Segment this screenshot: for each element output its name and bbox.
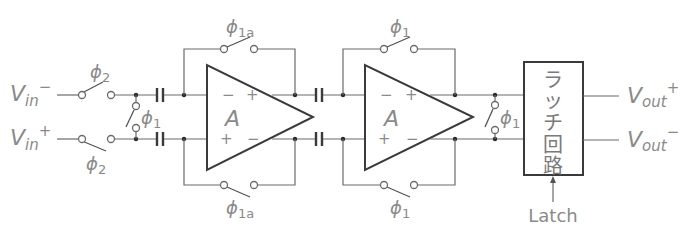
svg-text:Vout−: Vout− bbox=[627, 123, 679, 155]
svg-text:+: + bbox=[405, 86, 418, 104]
svg-text:−: − bbox=[247, 130, 260, 148]
svg-text:路: 路 bbox=[543, 154, 563, 178]
coupling-capacitor-1-top bbox=[157, 88, 163, 102]
stage1-feedback-bottom: ϕ1a bbox=[182, 137, 297, 221]
phi2-bottom-label: ϕ2 bbox=[86, 153, 106, 177]
input-switch-bottom: ϕ2 bbox=[57, 136, 156, 178]
svg-text:Vin+: Vin+ bbox=[10, 122, 51, 154]
stage1-feedback-top: ϕ1a bbox=[182, 16, 297, 97]
vin-minus-label: Vin− bbox=[10, 78, 51, 110]
svg-text:−: − bbox=[406, 130, 419, 148]
stage2-feedback-top: ϕ1 bbox=[341, 16, 457, 97]
output-short-switch: ϕ1 bbox=[485, 93, 520, 141]
vin-plus-label: Vin+ bbox=[10, 122, 51, 154]
coupling-capacitor-1-bottom bbox=[157, 132, 163, 146]
phi1-stage2-top-label: ϕ1 bbox=[390, 16, 410, 40]
phi2-top-label: ϕ2 bbox=[90, 61, 110, 85]
svg-text:+: + bbox=[246, 86, 259, 104]
input-switch-top: ϕ2 bbox=[57, 61, 156, 99]
phi1-output-label: ϕ1 bbox=[500, 107, 520, 131]
svg-text:−: − bbox=[222, 86, 235, 104]
latch-circuit-block: ラ ッ チ 回 路 bbox=[524, 62, 583, 178]
svg-text:チ: チ bbox=[543, 111, 563, 135]
svg-text:Vout+: Vout+ bbox=[627, 79, 679, 111]
amplifier-stage-1: − + + − A bbox=[207, 65, 313, 170]
phi1a-top-label: ϕ1a bbox=[226, 16, 254, 40]
svg-text:ッ: ッ bbox=[543, 89, 563, 113]
coupling-capacitor-2-bottom bbox=[316, 132, 322, 146]
phi1-stage2-bottom-label: ϕ1 bbox=[390, 197, 410, 221]
svg-text:−: − bbox=[380, 86, 393, 104]
latch-label: Latch bbox=[528, 205, 577, 226]
latch-control-input: Latch bbox=[528, 176, 577, 226]
phi1a-bottom-label: ϕ1a bbox=[226, 197, 254, 221]
vout-minus-label: Vout− bbox=[627, 123, 679, 155]
gain-label-a1: A bbox=[223, 106, 240, 131]
vout-plus-label: Vout+ bbox=[627, 79, 679, 111]
phi1-input-label: ϕ1 bbox=[141, 107, 161, 131]
comparator-circuit-diagram: Vin− Vin+ ϕ2 ϕ2 ϕ1 bbox=[0, 0, 687, 232]
svg-text:+: + bbox=[378, 130, 391, 148]
stage2-feedback-bottom: ϕ1 bbox=[341, 137, 457, 221]
svg-text:+: + bbox=[220, 130, 233, 148]
svg-text:Vin−: Vin− bbox=[10, 78, 51, 110]
coupling-capacitor-2-top bbox=[316, 88, 322, 102]
gain-label-a2: A bbox=[382, 106, 399, 131]
amplifier-stage-2: − + + − A bbox=[365, 65, 473, 170]
